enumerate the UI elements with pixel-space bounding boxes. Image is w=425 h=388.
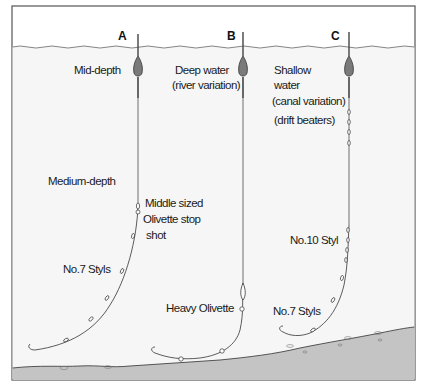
fishing-rig-diagram: A B C Mid-depth Medium-depth Middle size… (0, 0, 425, 388)
diagram-canvas (0, 0, 425, 388)
rig-c-letter: C (331, 29, 340, 43)
label-river-variation: (river variation) (172, 78, 240, 92)
rig-a-letter: A (118, 29, 127, 43)
label-shot: shot (146, 228, 166, 242)
label-no7-styls-c: No.7 Styls (273, 304, 320, 318)
label-no7-styls-a: No.7 Styls (63, 262, 110, 276)
water (13, 46, 415, 379)
label-no10-styl: No.10 Styl (290, 233, 338, 247)
rig-b-letter: B (227, 29, 236, 43)
label-medium-depth: Medium-depth (48, 174, 116, 188)
label-olivette-stop: Olivette stop (143, 212, 200, 226)
label-mid-depth: Mid-depth (74, 63, 121, 77)
label-middle-sized: Middle sized (145, 196, 203, 210)
label-drift-beaters: (drift beaters) (274, 113, 335, 127)
label-deep-water: Deep water (175, 63, 229, 77)
label-heavy-olivette: Heavy Olivette (166, 301, 234, 315)
label-water: water (274, 78, 300, 92)
label-shallow: Shallow (274, 63, 311, 77)
label-canal-variation: (canal variation) (272, 94, 345, 108)
